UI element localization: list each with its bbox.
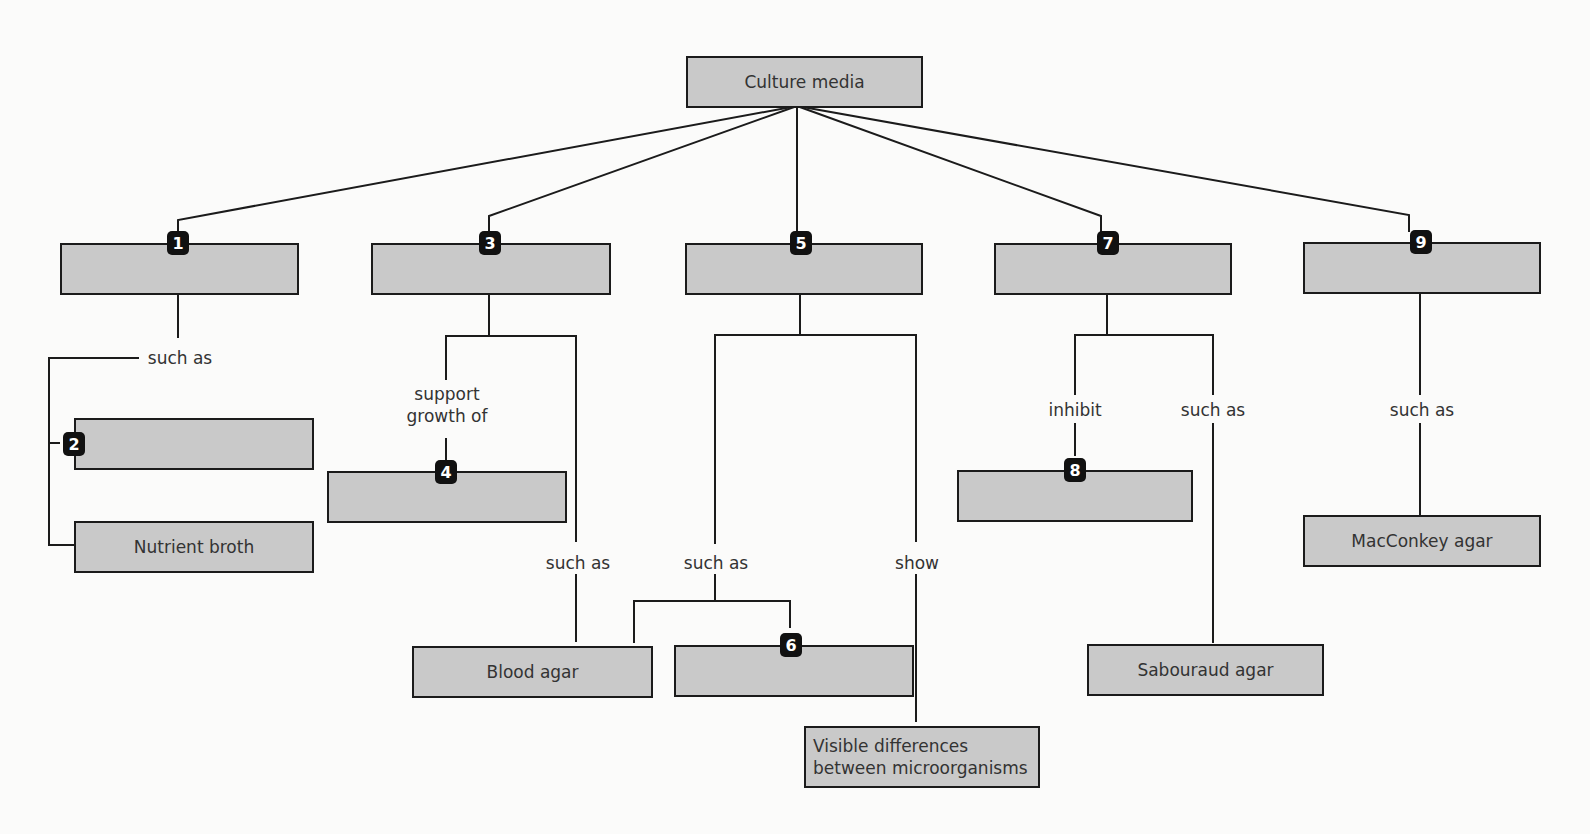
link-label-such-as-7: such as <box>1179 399 1247 421</box>
link-label-such-as-1: such as <box>146 347 214 369</box>
number-badge-4: 4 <box>435 460 457 484</box>
concept-map: Culture media 1 3 5 7 9 such as 2 Nutrie… <box>0 0 1590 834</box>
number-badge-3: 3 <box>479 231 501 255</box>
example-box-macconkey-agar: MacConkey agar <box>1303 515 1541 567</box>
connector-lines <box>0 0 1590 834</box>
example-box-visible-differences: Visible differences between microorganis… <box>804 726 1040 788</box>
number-badge-2: 2 <box>63 432 85 456</box>
number-badge-9: 9 <box>1410 230 1432 254</box>
link-label-support-growth-of: support growth of <box>405 383 490 427</box>
example-box-sabouraud-agar: Sabouraud agar <box>1087 644 1324 696</box>
number-badge-7: 7 <box>1097 231 1119 255</box>
link-label-such-as-5: such as <box>682 552 750 574</box>
number-badge-1: 1 <box>167 231 189 255</box>
root-node-culture-media: Culture media <box>686 56 923 108</box>
link-label-such-as-9: such as <box>1388 399 1456 421</box>
number-badge-5: 5 <box>790 231 812 255</box>
example-box-nutrient-broth: Nutrient broth <box>74 521 314 573</box>
number-badge-6: 6 <box>780 633 802 657</box>
link-label-inhibit: inhibit <box>1046 399 1103 421</box>
root-label: Culture media <box>744 72 864 92</box>
example-box-2[interactable] <box>74 418 314 470</box>
link-label-show: show <box>893 552 941 574</box>
example-box-blood-agar: Blood agar <box>412 646 653 698</box>
link-label-such-as-3: such as <box>544 552 612 574</box>
number-badge-8: 8 <box>1064 458 1086 482</box>
